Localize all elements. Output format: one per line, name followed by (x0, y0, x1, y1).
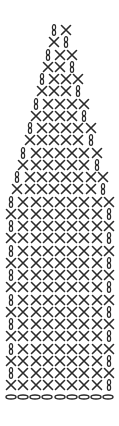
single-crochet-icon (103, 367, 115, 379)
single-crochet-icon (17, 220, 29, 232)
chain-stitch-icon (97, 183, 109, 195)
single-crochet-icon (66, 306, 78, 318)
single-crochet-icon (42, 318, 54, 330)
single-crochet-icon (54, 367, 66, 379)
single-crochet-icon (54, 355, 66, 367)
single-crochet-icon (78, 220, 90, 232)
single-crochet-icon (30, 159, 42, 171)
single-crochet-icon (97, 171, 109, 183)
single-crochet-icon (54, 269, 66, 281)
chart-row (0, 159, 119, 171)
single-crochet-icon (48, 36, 60, 48)
single-crochet-icon (60, 183, 72, 195)
single-crochet-icon (48, 122, 60, 134)
chart-row (0, 330, 119, 342)
single-crochet-icon (91, 294, 103, 306)
single-crochet-icon (54, 196, 66, 208)
single-crochet-icon (78, 294, 90, 306)
single-crochet-icon (78, 367, 90, 379)
single-crochet-icon (17, 367, 29, 379)
chart-row (0, 36, 119, 48)
single-crochet-icon (91, 330, 103, 342)
single-crochet-icon (42, 281, 54, 293)
chain-stitch-icon (36, 73, 48, 85)
single-crochet-icon (54, 343, 66, 355)
single-crochet-icon (54, 232, 66, 244)
foundation-chain-icon (78, 391, 90, 403)
single-crochet-icon (78, 98, 90, 110)
single-crochet-icon (42, 61, 54, 73)
single-crochet-icon (36, 171, 48, 183)
single-crochet-icon (54, 379, 66, 391)
single-crochet-icon (17, 343, 29, 355)
single-crochet-icon (103, 318, 115, 330)
single-crochet-icon (60, 73, 72, 85)
single-crochet-icon (78, 245, 90, 257)
single-crochet-icon (42, 343, 54, 355)
single-crochet-icon (66, 343, 78, 355)
chain-stitch-icon (72, 85, 84, 97)
single-crochet-icon (42, 294, 54, 306)
chart-row (0, 122, 119, 134)
single-crochet-icon (85, 122, 97, 134)
single-crochet-icon (78, 355, 90, 367)
single-crochet-icon (54, 61, 66, 73)
single-crochet-icon (66, 159, 78, 171)
single-crochet-icon (30, 343, 42, 355)
single-crochet-icon (78, 159, 90, 171)
single-crochet-icon (66, 220, 78, 232)
chain-stitch-icon (78, 110, 90, 122)
single-crochet-icon (42, 208, 54, 220)
single-crochet-icon (17, 355, 29, 367)
single-crochet-icon (17, 379, 29, 391)
single-crochet-icon (17, 330, 29, 342)
single-crochet-icon (66, 367, 78, 379)
single-crochet-icon (66, 257, 78, 269)
single-crochet-icon (72, 73, 84, 85)
single-crochet-icon (103, 294, 115, 306)
chain-stitch-icon (103, 379, 115, 391)
chart-row (0, 355, 119, 367)
chart-row (0, 269, 119, 281)
chart-row (0, 85, 119, 97)
chain-stitch-icon (48, 24, 60, 36)
single-crochet-icon (66, 232, 78, 244)
chain-stitch-icon (66, 61, 78, 73)
single-crochet-icon (42, 196, 54, 208)
foundation-chain-icon (41, 391, 53, 403)
foundation-chain-icon (102, 391, 114, 403)
single-crochet-icon (5, 232, 17, 244)
chain-stitch-icon (103, 355, 115, 367)
single-crochet-icon (66, 208, 78, 220)
single-crochet-icon (91, 232, 103, 244)
single-crochet-icon (85, 171, 97, 183)
foundation-chain-icon (66, 391, 78, 403)
single-crochet-icon (5, 281, 17, 293)
single-crochet-icon (17, 257, 29, 269)
single-crochet-icon (91, 147, 103, 159)
single-crochet-icon (54, 294, 66, 306)
single-crochet-icon (91, 343, 103, 355)
single-crochet-icon (30, 379, 42, 391)
chain-stitch-icon (5, 343, 17, 355)
single-crochet-icon (24, 183, 36, 195)
chain-stitch-icon (11, 171, 23, 183)
single-crochet-icon (78, 269, 90, 281)
single-crochet-icon (66, 49, 78, 61)
single-crochet-icon (42, 147, 54, 159)
single-crochet-icon (66, 330, 78, 342)
chart-row (0, 220, 119, 232)
chain-stitch-icon (5, 245, 17, 257)
chart-row (0, 61, 119, 73)
single-crochet-icon (78, 330, 90, 342)
foundation-chain-icon (5, 391, 17, 403)
single-crochet-icon (72, 134, 84, 146)
single-crochet-icon (17, 208, 29, 220)
chart-row (0, 294, 119, 306)
single-crochet-icon (66, 196, 78, 208)
chain-stitch-icon (103, 306, 115, 318)
single-crochet-icon (42, 379, 54, 391)
chain-stitch-icon (103, 257, 115, 269)
single-crochet-icon (30, 269, 42, 281)
single-crochet-icon (91, 220, 103, 232)
